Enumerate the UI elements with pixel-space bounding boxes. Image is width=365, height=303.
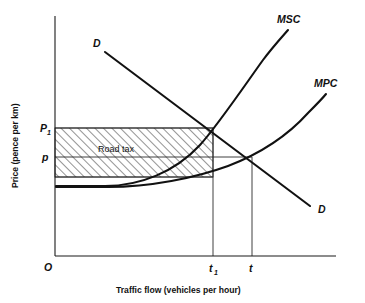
x-tick-label-t: t: [249, 262, 253, 274]
y-axis-title: Price (pence per km): [10, 103, 20, 188]
msc-label: MSC: [277, 13, 301, 25]
mpc-label: MPC: [314, 77, 338, 89]
y-tick-label-p: p: [41, 151, 49, 163]
origin-label: O: [44, 261, 52, 273]
x-axis-title: Traffic flow (vehicles per hour): [116, 285, 241, 295]
economics-diagram: D D MSC MPC Road tax P 1 p t 1 t O Price…: [0, 0, 365, 303]
demand-lower-label: D: [318, 203, 326, 215]
x-tick-label-t1: t: [209, 262, 213, 274]
x-tick-sub-t1: 1: [214, 269, 218, 276]
y-tick-sub-p1: 1: [47, 129, 51, 136]
road-tax-label: Road tax: [98, 144, 135, 154]
demand-upper-label: D: [93, 37, 101, 49]
